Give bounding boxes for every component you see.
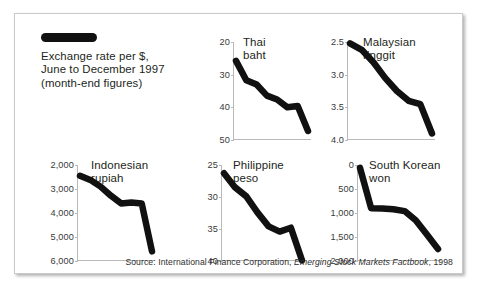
panel-malaysian-ringgit: Malaysian ringgit2.53.03.54.0 xyxy=(315,22,455,147)
data-line-malaysian-ringgit xyxy=(350,43,432,133)
y-tick-south-korean-won-3: 1,500 xyxy=(331,232,355,242)
data-line-philippine-peso xyxy=(224,173,302,260)
source-title: Emerging Stock Markets Factbook xyxy=(294,257,428,267)
y-tick-indonesian-rupiah-3: 5,000 xyxy=(51,232,75,242)
y-tick-indonesian-rupiah-1: 3,000 xyxy=(51,184,75,194)
y-tick-malaysian-ringgit-3: 4.0 xyxy=(331,135,344,145)
y-tick-south-korean-won-0: 0 xyxy=(349,160,354,170)
y-tick-malaysian-ringgit-2: 3.5 xyxy=(331,102,344,112)
line-swatch xyxy=(41,33,97,42)
plot-area-indonesian-rupiah xyxy=(77,165,155,261)
source-prefix: Source: International Finance Corporatio… xyxy=(125,257,294,267)
panel-south-korean-won: South Korean won05001,0001,5002,000 xyxy=(315,147,455,272)
panel-indonesian-rupiah: Indonesian rupiah2,0003,0004,0005,0006,0… xyxy=(25,147,185,272)
y-tickmark-indonesian-rupiah-4 xyxy=(75,261,78,262)
y-tick-philippine-peso-2: 35 xyxy=(208,224,218,234)
y-tick-philippine-peso-0: 25 xyxy=(208,160,218,170)
y-tick-south-korean-won-1: 500 xyxy=(338,184,354,194)
y-tick-thai-baht-2: 40 xyxy=(220,102,230,112)
y-tick-philippine-peso-1: 30 xyxy=(208,192,218,202)
plot-area-south-korean-won xyxy=(357,165,441,261)
panel-philippine-peso: Philippine peso25303540 xyxy=(191,147,317,272)
y-tick-thai-baht-1: 30 xyxy=(220,70,230,80)
data-line-south-korean-won xyxy=(360,168,438,249)
source-suffix: , 1998 xyxy=(429,257,454,267)
y-tick-indonesian-rupiah-4: 6,000 xyxy=(51,256,75,266)
plot-area-malaysian-ringgit xyxy=(347,42,435,140)
y-tick-malaysian-ringgit-0: 2.5 xyxy=(331,37,344,47)
data-line-indonesian-rupiah xyxy=(80,176,152,252)
y-tickmark-thai-baht-3 xyxy=(231,140,234,141)
y-tick-thai-baht-3: 50 xyxy=(220,135,230,145)
y-tick-indonesian-rupiah-2: 4,000 xyxy=(51,208,75,218)
y-tick-south-korean-won-2: 1,000 xyxy=(331,208,355,218)
y-tickmark-malaysian-ringgit-3 xyxy=(345,140,348,141)
source-note: Source: International Finance Corporatio… xyxy=(125,257,453,267)
y-tick-malaysian-ringgit-1: 3.0 xyxy=(331,70,344,80)
y-tick-indonesian-rupiah-0: 2,000 xyxy=(51,160,75,170)
legend-caption: Exchange rate per $, June to December 19… xyxy=(41,50,201,90)
figure-frame: Exchange rate per $, June to December 19… xyxy=(14,13,463,274)
y-tick-thai-baht-0: 20 xyxy=(220,37,230,47)
legend: Exchange rate per $, June to December 19… xyxy=(41,33,201,90)
data-line-thai-baht xyxy=(236,61,308,131)
panel-thai-baht: Thai baht20304050 xyxy=(191,22,317,147)
plot-area-philippine-peso xyxy=(221,165,305,261)
plot-area-thai-baht xyxy=(233,42,311,140)
